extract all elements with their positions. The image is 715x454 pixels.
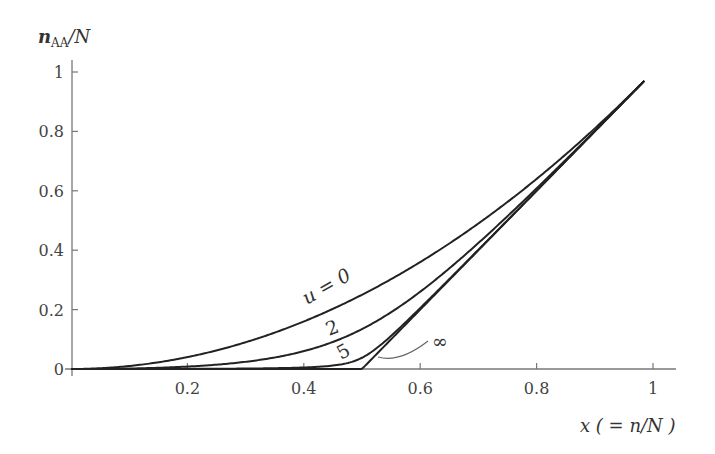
y-tick-label: 0.2 [39, 301, 64, 320]
x-tick-label: 0.2 [175, 379, 200, 398]
x-tick-label: 0.6 [407, 379, 432, 398]
y-tick-label: 0.8 [39, 122, 64, 141]
curves [71, 81, 644, 369]
y-tick-label: 0.6 [39, 182, 64, 201]
curve-u-0 [71, 81, 644, 369]
x-tick-label: 1 [648, 379, 658, 398]
y-axis-title: nAA/N [38, 26, 92, 50]
y-axis-title-sub: AA [50, 36, 69, 50]
curve-u-5 [71, 81, 644, 369]
label-u5: 5 [333, 338, 354, 363]
x-tick-label: 0.8 [524, 379, 549, 398]
x-axis-title: x ( = n/N ) [580, 415, 676, 436]
chart: 00.20.40.60.81 0.20.40.60.81 nAA/N x ( =… [0, 0, 715, 454]
curve-u-2 [71, 81, 644, 369]
y-axis-title-rest: /N [66, 26, 91, 47]
y-tick-label: 0.4 [39, 241, 64, 260]
y-tick-label: 1 [54, 63, 64, 82]
label-u2: 2 [322, 315, 341, 340]
y-tick-label: 0 [54, 360, 64, 379]
label-uinf: ∞ [432, 330, 448, 352]
x-tick-label: 0.4 [291, 379, 316, 398]
curve-u-inf [71, 81, 644, 369]
y-axis-title-main: n [38, 26, 51, 47]
axes [65, 60, 676, 376]
